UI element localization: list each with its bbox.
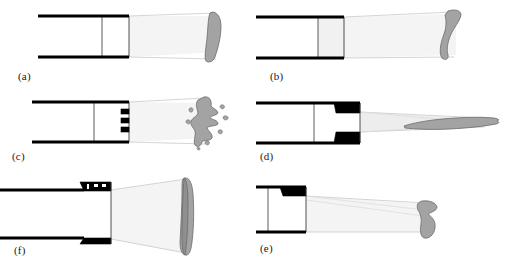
panel-f-label: (f)	[14, 244, 26, 256]
panel-d: (d)	[256, 92, 511, 174]
panel-e-diagram	[256, 174, 511, 274]
panel-c-obstacle-2	[121, 118, 129, 123]
panel-c-label: (c)	[12, 150, 25, 162]
panel-a-plume	[129, 16, 218, 57]
panel-e-label: (e)	[260, 242, 273, 254]
panel-c-fragment-4	[223, 116, 228, 120]
panel-f-diagram	[0, 174, 256, 274]
panel-d-diagram	[256, 92, 511, 174]
panel-c-fragment-5	[218, 130, 223, 134]
panel-d-label: (d)	[260, 150, 273, 162]
panel-d-wedge-lower	[334, 132, 360, 143]
panel-f-block-notch-3	[102, 184, 106, 187]
panel-c-fragment-1	[189, 108, 193, 112]
panel-c-obstacle-3	[121, 127, 129, 132]
panel-a: (a)	[0, 0, 256, 92]
panel-a-label: (a)	[18, 70, 31, 82]
panel-f-block-notch-1	[87, 184, 89, 189]
panel-a-diagram	[0, 0, 256, 92]
panel-b: (b)	[256, 0, 511, 92]
panel-c-obstacle-1	[121, 109, 129, 114]
panel-a-ray-lower	[129, 57, 216, 59]
panel-b-exit-shading	[318, 17, 344, 58]
panel-c-diagram	[0, 92, 256, 174]
panel-f: (f)	[0, 174, 256, 274]
figure-canvas: (a) (b)	[0, 0, 511, 274]
panel-f-block-lower	[80, 238, 111, 244]
panel-b-plume	[344, 14, 456, 58]
panel-f-block-notch-2	[94, 184, 98, 187]
panel-b-diagram	[256, 0, 511, 92]
panel-c-fragment-6	[205, 141, 210, 145]
panel-e: (e)	[256, 174, 511, 274]
panel-c-fragment-3	[220, 105, 225, 109]
panel-c-ray-upper	[129, 98, 206, 102]
panel-f-plume	[111, 179, 188, 254]
panel-b-label: (b)	[270, 70, 283, 82]
panel-c: (c)	[0, 92, 256, 174]
panel-c-fragment-7	[197, 147, 200, 150]
panel-a-ray-upper	[129, 13, 216, 16]
panel-c-fragment-2	[186, 120, 191, 124]
